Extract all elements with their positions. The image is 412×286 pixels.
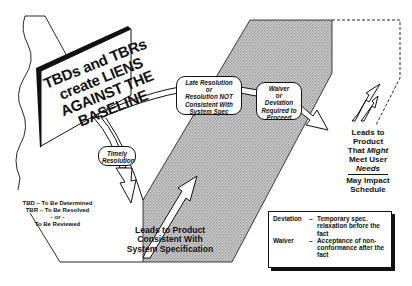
schedule-impact-note: May Impact (328, 176, 408, 185)
separator-line (348, 174, 388, 175)
definition-waiver: Waiver – Acceptance of non-conformance a… (273, 237, 387, 259)
timely-resolution-bubble: Timely Resolution (98, 146, 136, 166)
waiver-deviation-bubble: Waiver or Deviation Required to Proceed (256, 82, 302, 120)
definition-deviation: Deviation – Temporary spec. relaxation b… (273, 215, 387, 237)
tbr-definition: TBR – To Be Resolved (10, 207, 105, 214)
tbd-definition: TBD – To Be Determined (10, 200, 105, 207)
outcome-might-label: Leads to Product That Might Meet User Ne… (328, 128, 408, 194)
late-resolution-bubble: Late Resolution or Resolution NOT Consis… (176, 76, 242, 115)
dashed-region (332, 20, 400, 125)
up-arrows-might (352, 84, 380, 121)
outcome-consistent-label: Leads to Product Consistent With System … (120, 226, 220, 254)
abbreviation-legend: TBD – To Be Determined TBR – To Be Resol… (10, 200, 105, 228)
definitions-box: Deviation – Temporary spec. relaxation b… (268, 211, 392, 268)
